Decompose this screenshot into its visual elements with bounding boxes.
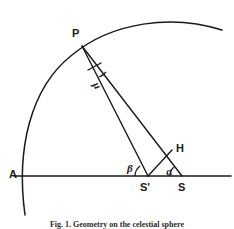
figure-canvas <box>0 0 234 229</box>
angle-arc-beta <box>135 166 140 176</box>
figure-caption: Fig. 1. Geometry on the celestial sphere <box>0 219 234 229</box>
point-label-h: H <box>176 143 184 154</box>
point-label-s: S <box>178 182 185 193</box>
angle-label-beta: β <box>127 163 133 174</box>
point-label-s-prime: S' <box>140 182 150 193</box>
segment-p-to-sprime <box>82 46 148 176</box>
great-circle-arc <box>22 22 222 215</box>
geometry-figure: P A S' S H μ β α Fig. 1. Geometry on the… <box>0 0 234 229</box>
point-label-p: P <box>72 28 79 39</box>
point-label-a: A <box>9 169 17 180</box>
